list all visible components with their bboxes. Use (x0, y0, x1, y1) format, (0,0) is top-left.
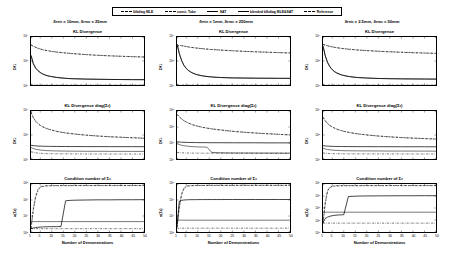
series-line (31, 200, 144, 229)
y-tick-label: 105 (310, 206, 320, 210)
series-line (177, 44, 290, 78)
x-tick-label: 35 (400, 234, 404, 238)
y-tick-label: 108 (18, 181, 28, 185)
x-tick-label: 10 (49, 234, 53, 238)
plot-area (322, 36, 437, 86)
y-tick-label: 100 (18, 158, 28, 162)
x-tick-label: 40 (120, 234, 124, 238)
y-tick-label: 106 (18, 198, 28, 202)
y-axis-label: DKL (12, 138, 17, 144)
x-axis-label: Number of Demonstrations (176, 240, 291, 245)
x-axis-label: Number of Demonstrations (30, 240, 145, 245)
panel-r1-c2: KL Divergence diag(Σx)100102104DKL (0, 0, 449, 256)
legend-item-4[interactable]: Reference (304, 10, 333, 14)
x-tick-label: 35 (108, 234, 112, 238)
y-axis-label: κ(Σx) (12, 208, 17, 217)
plot-area (176, 183, 291, 233)
x-tick-label: 15 (207, 234, 211, 238)
series-line (177, 44, 290, 78)
y-tick-label: 103 (310, 219, 320, 223)
x-tick-label: 1 (321, 234, 323, 238)
x-tick-label: 5 (38, 234, 40, 238)
y-tick-label: 102 (310, 59, 320, 63)
legend-item-2[interactable]: SAT (207, 10, 226, 14)
series-line (177, 200, 290, 227)
legend-swatch-solid-icon (207, 11, 218, 12)
y-tick-label: 104 (18, 34, 28, 38)
series-line (31, 186, 144, 229)
y-tick-label: 104 (310, 34, 320, 38)
series-line (31, 185, 144, 228)
y-axis-label: DKL (12, 64, 17, 70)
x-tick-label: 50 (435, 234, 439, 238)
x-tick-label: 25 (376, 234, 380, 238)
legend-swatch-dash-icon (165, 11, 176, 12)
plot-area (176, 110, 291, 160)
y-tick-label: 109 (310, 181, 320, 185)
panel-title: KL Divergence (162, 29, 305, 34)
plot-area (322, 110, 437, 160)
panel-title: Condition number of Σx (308, 176, 449, 181)
x-tick-label: 30 (96, 234, 100, 238)
panel-title: Condition number of Σx (16, 176, 159, 181)
panel-r2-c0: Condition number of Σx102104106108κ(Σx)1… (0, 0, 449, 256)
series-line (31, 45, 144, 57)
plot-area (30, 36, 145, 86)
panel-title: KL Divergence diag(Σx) (16, 103, 159, 108)
series-line (31, 55, 144, 79)
series-line (323, 148, 436, 151)
legend-label: SAT (220, 10, 227, 14)
y-axis-label: DKL (158, 64, 163, 70)
panel-title: KL Divergence (16, 29, 159, 34)
series-line (323, 153, 436, 154)
series-line (323, 146, 436, 147)
series-line (323, 46, 436, 79)
y-tick-label: 102 (18, 231, 28, 235)
plot-area (30, 183, 145, 233)
legend-item-3[interactable]: blended blkdiag MLE&SAT (238, 10, 293, 14)
y-tick-label: 100 (310, 84, 320, 88)
x-tick-label: 10 (341, 234, 345, 238)
series-line (31, 148, 144, 152)
series-line (177, 142, 290, 143)
series-line (177, 114, 290, 135)
x-tick-label: 15 (353, 234, 357, 238)
y-tick-label: 102 (164, 231, 174, 235)
x-tick-label: 45 (423, 234, 427, 238)
series-line (323, 196, 436, 223)
column-header-0: δrmin = 10mm, δrmax = 25mm (6, 19, 154, 27)
x-tick-label: 45 (131, 234, 135, 238)
y-axis-label: DKL (158, 138, 163, 144)
plot-area (176, 36, 291, 86)
y-axis-label: DKL (304, 138, 309, 144)
x-tick-label: 35 (254, 234, 258, 238)
x-tick-label: 1 (29, 234, 31, 238)
legend-item-0[interactable]: blkdiag MLE (121, 10, 153, 14)
x-tick-label: 5 (184, 234, 186, 238)
legend-label: blkdiag MLE (133, 10, 153, 14)
series-line (323, 117, 436, 139)
y-tick-label: 101 (310, 231, 320, 235)
figure-root: blkdiag MLEconst. TubeSATblended blkdiag… (0, 0, 449, 256)
series-line (323, 44, 436, 53)
series-line (323, 185, 436, 223)
y-tick-label: 103 (164, 108, 174, 112)
legend-swatch-dashdot-icon (121, 11, 132, 12)
x-tick-label: 25 (84, 234, 88, 238)
y-tick-label: 102 (164, 59, 174, 63)
series-line (323, 186, 436, 223)
series-line (31, 152, 144, 154)
y-tick-label: 102 (18, 59, 28, 63)
panel-title: KL Divergence (308, 29, 449, 34)
legend-swatch-dashdot-icon (304, 11, 315, 12)
panel-r1-c0: KL Divergence diag(Σx)100102104DKL (0, 0, 449, 256)
y-tick-label: 100 (18, 84, 28, 88)
y-tick-label: 102 (18, 133, 28, 137)
x-tick-label: 20 (219, 234, 223, 238)
y-axis-label: κ(Σx) (304, 208, 309, 217)
legend-label: Reference (317, 10, 333, 14)
plot-area (30, 110, 145, 160)
x-tick-label: 20 (73, 234, 77, 238)
series-line (177, 114, 290, 135)
legend-item-1[interactable]: const. Tube (165, 10, 196, 14)
